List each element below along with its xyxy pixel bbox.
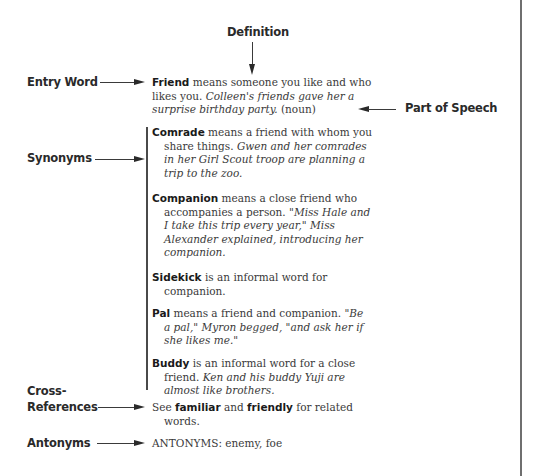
synonym-word: Companion xyxy=(152,192,218,204)
synonyms-bracket xyxy=(146,127,148,390)
cross-references-arrow-line xyxy=(98,407,135,408)
synonym-word: Sidekick xyxy=(152,271,202,283)
arrow-right-icon xyxy=(134,79,145,85)
entry-word-label: Entry Word xyxy=(27,75,98,89)
entry-part-of-speech: (noun) xyxy=(278,103,316,115)
cross-references-label-line1: Cross- xyxy=(27,384,66,398)
antonyms-entry: ANTONYMS: enemy, foe xyxy=(152,437,372,451)
cross-ref-word-friendly: friendly xyxy=(247,401,293,413)
main-entry: Friend means someone you like and who li… xyxy=(152,76,372,117)
part-of-speech-label: Part of Speech xyxy=(405,101,497,115)
antonyms-arrow-line xyxy=(97,443,135,444)
synonym-word: Buddy xyxy=(152,357,189,369)
arrow-right-icon xyxy=(134,404,145,410)
arrow-down-icon xyxy=(249,64,255,75)
cross-ref-middle: and xyxy=(221,401,247,413)
cross-references-label-line2: References xyxy=(27,400,98,414)
synonym-definition: means a friend and companion. xyxy=(170,307,344,319)
synonym-entry-pal: Pal means a friend and companion. "Be a … xyxy=(152,307,372,348)
synonym-entry-sidekick: Sidekick is an informal word for compani… xyxy=(152,271,372,298)
antonyms-label: Antonyms xyxy=(27,436,90,450)
synonym-entry-buddy: Buddy is an informal word for a close fr… xyxy=(152,357,372,398)
cross-ref-prefix: See xyxy=(152,401,175,413)
synonym-word: Pal xyxy=(152,307,170,319)
entry-word: Friend xyxy=(152,76,189,88)
part-of-speech-arrow-line xyxy=(368,109,396,110)
synonym-entry-companion: Companion means a close friend who accom… xyxy=(152,192,372,260)
arrow-right-icon xyxy=(134,156,145,162)
cross-reference-entry: See familiar and friendly for related wo… xyxy=(152,401,372,428)
entry-word-arrow-line xyxy=(100,82,136,83)
page-border-line xyxy=(520,0,522,476)
synonyms-arrow-line xyxy=(95,159,135,160)
synonym-word: Comrade xyxy=(152,126,205,138)
synonyms-label: Synonyms xyxy=(27,151,92,165)
arrow-right-icon xyxy=(134,440,145,446)
synonym-entry-comrade: Comrade means a friend with whom you sha… xyxy=(152,126,372,180)
antonyms-text: ANTONYMS: enemy, foe xyxy=(152,437,282,449)
definition-label: Definition xyxy=(227,25,289,39)
cross-ref-word-familiar: familiar xyxy=(175,401,221,413)
